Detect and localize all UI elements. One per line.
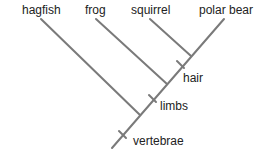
taxon-hagfish: hagfish (22, 4, 61, 16)
trait-limbs: limbs (160, 100, 188, 112)
cladogram: hagfish frog squirrel polar bear hair li… (0, 0, 267, 157)
trait-hair: hair (183, 72, 203, 84)
main-branch (112, 19, 224, 148)
hagfish-branch (41, 19, 140, 115)
taxon-frog: frog (85, 4, 106, 16)
taxon-squirrel: squirrel (131, 4, 170, 16)
frog-branch (96, 19, 167, 84)
trait-vertebrae: vertebrae (133, 135, 184, 147)
squirrel-branch (150, 19, 191, 56)
taxon-polar-bear: polar bear (199, 4, 253, 16)
hair-tick (177, 61, 184, 68)
